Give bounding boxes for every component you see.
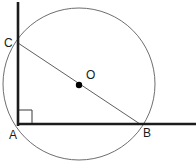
- label-a: A: [9, 128, 17, 142]
- label-b: B: [143, 126, 151, 140]
- geometry-canvas: O C A B: [0, 0, 196, 161]
- right-angle-square-at-a: [19, 110, 32, 123]
- geometry-diagram: O C A B: [0, 0, 196, 161]
- center-point-dot: [76, 82, 82, 88]
- label-o: O: [86, 68, 95, 82]
- label-c: C: [4, 36, 13, 50]
